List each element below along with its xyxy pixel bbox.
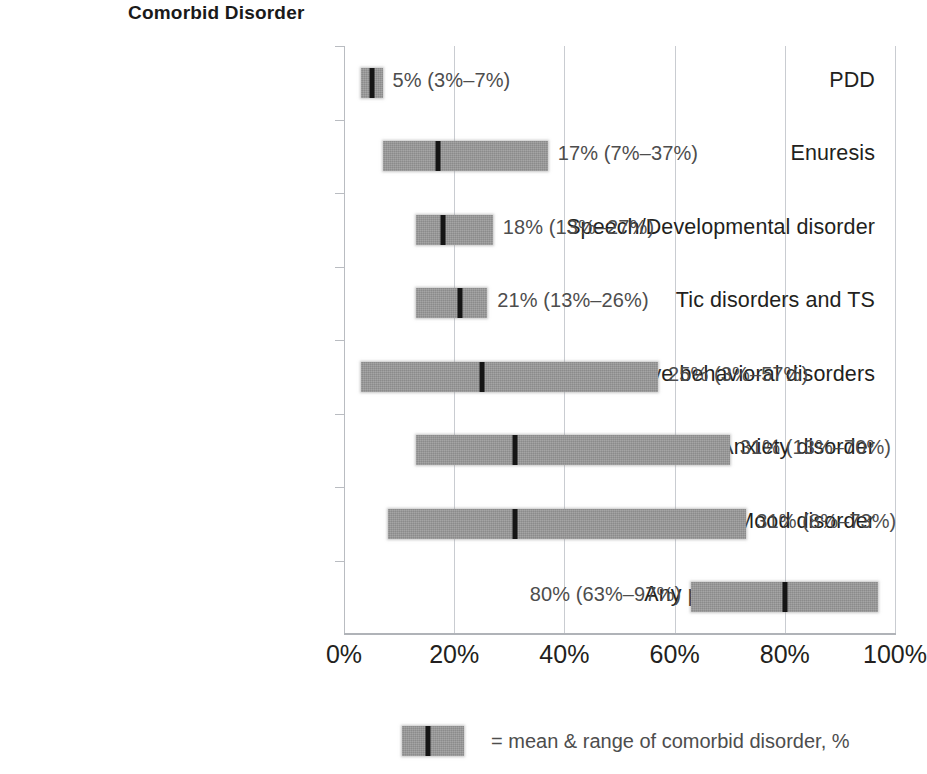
value-label: 80% (63%–97%) — [530, 583, 681, 606]
value-label: 5% (3%–7%) — [393, 69, 511, 92]
y-axis-tick — [335, 340, 344, 341]
range-bar — [361, 362, 659, 392]
mean-marker — [435, 141, 440, 171]
value-label: 31% (13%–70%) — [740, 436, 891, 459]
chart-row: Mood disorder31% (8%–73%) — [344, 487, 895, 561]
range-bar — [416, 435, 730, 465]
value-label: 21% (13%–26%) — [497, 289, 648, 312]
chart-row: Anxiety disorder31% (13%–70%) — [344, 414, 895, 488]
category-label: Tic disorders and TS — [676, 288, 875, 313]
chart-row: PDD5% (3%–7%) — [344, 46, 895, 120]
chart-row: Tic disorders and TS21% (13%–26%) — [344, 267, 895, 341]
range-bar — [383, 141, 548, 171]
x-tick-label: 40% — [539, 640, 589, 669]
y-axis-tick — [335, 120, 344, 121]
x-axis-baseline — [344, 633, 896, 635]
chart-row: Any psychiatric disorder80% (63%–97%) — [344, 561, 895, 635]
x-tick-label: 60% — [650, 640, 700, 669]
x-tick-label: 20% — [429, 640, 479, 669]
value-label: 31% (8%–73%) — [756, 510, 896, 533]
mean-marker — [479, 362, 484, 392]
y-axis-tick — [335, 267, 344, 268]
x-tick-label: 0% — [326, 640, 362, 669]
value-label: 18% (13%–27%) — [503, 216, 654, 239]
x-axis-tick-labels: 0%20%40%60%80%100% — [0, 640, 924, 680]
y-axis-tick — [335, 414, 344, 415]
page-title: Comorbid Disorder — [128, 2, 305, 24]
mean-marker — [369, 68, 374, 98]
legend: = mean & range of comorbid disorder, % — [402, 726, 850, 756]
x-tick-label: 80% — [760, 640, 810, 669]
mean-marker — [441, 215, 446, 245]
legend-mean-marker — [426, 726, 431, 756]
mean-marker — [782, 582, 787, 612]
range-bar — [691, 582, 878, 612]
mean-marker — [512, 435, 517, 465]
range-bar — [416, 215, 493, 245]
chart-row: Enuresis17% (7%–37%) — [344, 120, 895, 194]
value-label: 25% (3%–57%) — [668, 363, 808, 386]
x-tick-label: 100% — [863, 640, 927, 669]
y-axis-tick — [335, 193, 344, 194]
range-bar — [416, 288, 488, 318]
legend-label: = mean & range of comorbid disorder, % — [491, 730, 850, 753]
category-label: PDD — [829, 68, 875, 93]
value-label: 17% (7%–37%) — [558, 142, 698, 165]
chart-row: Disruptive behavioral disorders25% (3%–5… — [344, 340, 895, 414]
mean-marker — [512, 509, 517, 539]
mean-marker — [457, 288, 462, 318]
range-bar — [388, 509, 746, 539]
category-label: Enuresis — [791, 141, 875, 166]
chart-row: Speech/Developmental disorder18% (13%–27… — [344, 193, 895, 267]
plot-area: PDD5% (3%–7%)Enuresis17% (7%–37%)Speech/… — [344, 46, 895, 634]
y-axis-tick — [335, 561, 344, 562]
y-axis-tick — [335, 487, 344, 488]
gridline-100pct — [895, 46, 896, 634]
range-bar — [361, 68, 383, 98]
mean-range-swatch — [402, 726, 464, 756]
y-axis-tick — [335, 46, 344, 47]
